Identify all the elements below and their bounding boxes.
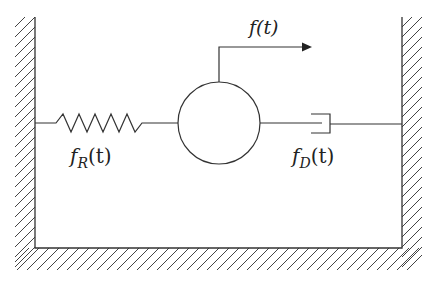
mass	[178, 82, 260, 164]
spring-force-arg: (t)	[88, 144, 112, 168]
svg-text:fD(t): fD(t)	[290, 144, 334, 171]
damper	[260, 114, 402, 133]
force-arrow-stem	[219, 47, 305, 82]
spring	[35, 114, 178, 132]
svg-text:fR(t): fR(t)	[68, 144, 112, 171]
applied-force-label: f(t)	[247, 16, 279, 38]
damper-force-subscript: D	[298, 155, 310, 171]
arrow-head-icon	[302, 43, 312, 52]
spring-force-subscript: R	[76, 155, 88, 171]
damper-force-arg: (t)	[311, 144, 335, 168]
mass-spring-damper-diagram: f(t) fR(t) fD(t)	[0, 0, 439, 284]
damper-force-label: fD(t)	[290, 144, 334, 171]
floor-hatching	[5, 247, 430, 272]
spring-force-label: fR(t)	[68, 144, 112, 171]
